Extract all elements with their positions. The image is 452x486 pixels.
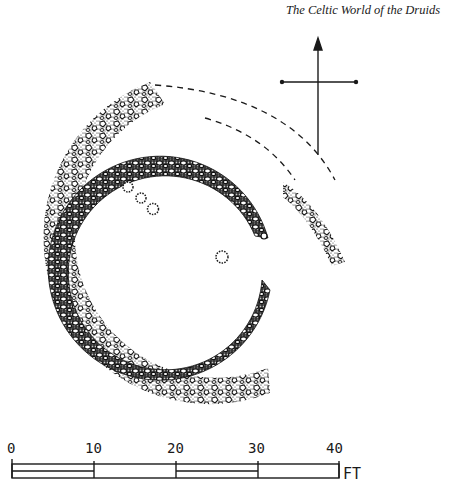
scale-tick-10: 10 (85, 440, 102, 456)
north-arrow-icon (281, 38, 358, 155)
post-hole (148, 204, 159, 215)
scale-bar (12, 459, 339, 478)
post-holes (123, 182, 228, 263)
inner-stone-ring (48, 156, 270, 380)
scale-tick-0: 0 (7, 440, 15, 456)
outer-ring-fragment (283, 182, 345, 266)
site-plan (0, 0, 452, 486)
scale-tick-40: 40 (326, 440, 343, 456)
scale-unit: FT (343, 465, 361, 483)
scale-tick-20: 20 (167, 440, 184, 456)
post-hole (123, 182, 133, 192)
post-hole (216, 251, 228, 263)
outer-stone-ring (43, 82, 270, 404)
scale-tick-30: 30 (248, 440, 265, 456)
post-hole (136, 193, 146, 203)
ring-end-stone (261, 233, 267, 239)
